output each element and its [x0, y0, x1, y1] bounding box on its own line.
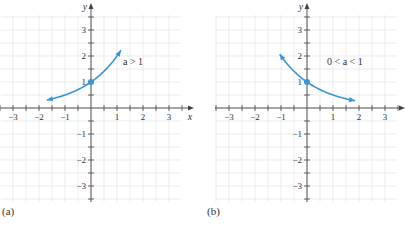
curve-arrow-icon [349, 97, 355, 102]
x-tick-label: −3 [8, 112, 18, 122]
x-tick-label: −1 [276, 112, 286, 122]
exponential-function-figure: −3−2−1123321−1−2−3yxa > 1 −3−2−1123321−1… [0, 0, 405, 226]
x-tick-label: −2 [34, 112, 44, 122]
x-tick-label: −3 [224, 112, 234, 122]
x-tick-label: −1 [60, 112, 70, 122]
plots-canvas: −3−2−1123321−1−2−3yxa > 1 −3−2−1123321−1… [0, 0, 405, 226]
base-condition-annotation: 0 < a < 1 [327, 56, 363, 67]
base-condition-annotation: a > 1 [123, 56, 143, 67]
y-axis-label: y [82, 1, 88, 12]
panel-a-label: (a) [2, 205, 14, 217]
y-tick-label: −1 [76, 129, 86, 139]
panel-b-graph: −3−2−1123321−1−2−3y0 < a < 1 [215, 1, 405, 202]
y-tick-label: −3 [76, 181, 86, 191]
y-tick-label: 2 [298, 51, 303, 61]
x-tick-label: 2 [141, 112, 146, 122]
panel-b-label: (b) [207, 205, 220, 217]
x-axis-label: x [187, 111, 193, 122]
y-tick-label: −3 [292, 181, 302, 191]
x-tick-label: 1 [115, 112, 120, 122]
y-axis-arrow-icon [305, 3, 310, 9]
x-axis-arrow-icon [399, 106, 405, 111]
x-axis-arrow-icon [188, 106, 194, 111]
x-tick-label: 3 [383, 112, 388, 122]
y-tick-label: −2 [292, 155, 302, 165]
panel-a-graph: −3−2−1123321−1−2−3yxa > 1 [0, 1, 194, 202]
y-tick-label: 2 [82, 51, 87, 61]
x-tick-label: 3 [167, 112, 172, 122]
y-tick-label: −1 [292, 129, 302, 139]
y-tick-label: 3 [298, 25, 303, 35]
x-tick-label: 1 [331, 112, 336, 122]
y-intercept-point [304, 79, 310, 85]
y-axis-arrow-icon [89, 3, 94, 9]
y-tick-label: −2 [76, 155, 86, 165]
y-intercept-point [88, 79, 94, 85]
y-axis-label: y [298, 1, 304, 12]
x-tick-label: 2 [357, 112, 362, 122]
y-tick-label: 3 [82, 25, 87, 35]
x-tick-label: −2 [250, 112, 260, 122]
